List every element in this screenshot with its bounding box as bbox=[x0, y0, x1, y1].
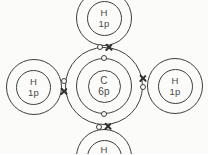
carbon-electron-circle-icon bbox=[97, 44, 103, 50]
hydrogen-electron-cross-icon bbox=[105, 43, 113, 51]
carbon-inner-electron-top-icon bbox=[101, 55, 107, 61]
carbon-electron-circle-icon bbox=[61, 78, 67, 84]
carbon-electron-circle-icon bbox=[140, 84, 146, 90]
hydrogen-electron-cross-icon bbox=[60, 87, 68, 95]
carbon-label: C 6p bbox=[88, 70, 121, 103]
carbon-inner-electron-bottom-icon bbox=[101, 111, 107, 117]
hydrogen-top-symbol: H bbox=[100, 7, 107, 18]
hydrogen-right-symbol: H bbox=[171, 75, 178, 86]
hydrogen-right-nucleus-label: 1p bbox=[170, 86, 181, 97]
hydrogen-top-label: H 1p bbox=[87, 1, 122, 36]
hydrogen-right-label: H 1p bbox=[158, 69, 193, 104]
hydrogen-bottom-symbol: H bbox=[100, 144, 107, 155]
carbon-electron-circle-icon bbox=[96, 124, 102, 130]
hydrogen-electron-cross-icon bbox=[104, 122, 112, 130]
methane-dot-cross-diagram: H 1p H 1p H 1p H C 6p bbox=[0, 0, 208, 154]
hydrogen-left-label: H 1p bbox=[16, 70, 51, 105]
hydrogen-electron-cross-icon bbox=[139, 74, 147, 82]
hydrogen-left-nucleus-label: 1p bbox=[28, 87, 39, 98]
carbon-symbol: C bbox=[100, 75, 107, 86]
carbon-nucleus-label: 6p bbox=[98, 86, 110, 97]
hydrogen-left-symbol: H bbox=[30, 76, 37, 87]
hydrogen-top-nucleus-label: 1p bbox=[99, 18, 110, 29]
hydrogen-bottom-label: H bbox=[87, 140, 122, 155]
